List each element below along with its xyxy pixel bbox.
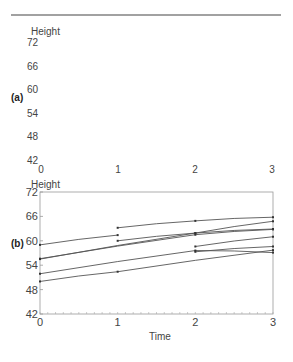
x-tick-label: 2 bbox=[192, 316, 198, 328]
x-tick-label: 1 bbox=[115, 164, 121, 175]
panel-a-ylabel: Height bbox=[31, 26, 60, 37]
data-point-marker bbox=[272, 220, 274, 222]
panel-b: (b) Height 726660544842 0123 Time bbox=[11, 179, 276, 342]
data-point-marker bbox=[117, 227, 119, 229]
data-point-marker bbox=[117, 240, 119, 242]
y-tick-label: 42 bbox=[27, 155, 39, 166]
x-tick-label: 3 bbox=[270, 316, 276, 328]
panel-b-x-tick-labels: 0123 bbox=[37, 316, 276, 328]
panel-a-x-tick-labels: 0123 bbox=[38, 164, 275, 175]
y-tick-label: 72 bbox=[27, 37, 39, 48]
y-tick-label: 72 bbox=[26, 186, 38, 198]
data-point-marker bbox=[39, 273, 41, 275]
series-lines bbox=[39, 216, 274, 282]
series-line-subject-4 bbox=[40, 251, 273, 274]
panel-a-y-tick-labels: 726660544842 bbox=[27, 37, 39, 166]
x-tick-label: 0 bbox=[37, 316, 43, 328]
x-tick-label: 3 bbox=[269, 164, 275, 175]
data-point-marker bbox=[194, 245, 196, 247]
data-point-marker bbox=[39, 258, 41, 260]
data-point-marker bbox=[272, 249, 274, 251]
y-tick-label: 66 bbox=[27, 61, 39, 72]
data-point-marker bbox=[194, 232, 196, 234]
y-tick-label: 48 bbox=[26, 284, 38, 296]
x-tick-label: 2 bbox=[192, 164, 198, 175]
data-point-marker bbox=[39, 280, 41, 282]
y-tick-label: 66 bbox=[26, 210, 38, 222]
figure: (a) Height 726660544842 0123 (b) Height … bbox=[0, 0, 293, 362]
data-point-marker bbox=[194, 220, 196, 222]
data-point-marker bbox=[272, 245, 274, 247]
y-tick-label: 54 bbox=[27, 108, 39, 119]
data-point-marker bbox=[194, 251, 196, 253]
data-point-marker bbox=[272, 228, 274, 230]
series-line-subject-1 bbox=[40, 235, 118, 245]
data-point-marker bbox=[272, 216, 274, 218]
data-point-marker bbox=[39, 244, 41, 246]
x-tick-label: 0 bbox=[38, 164, 44, 175]
x-axis-title: Time bbox=[149, 331, 171, 342]
data-point-marker bbox=[272, 236, 274, 238]
series-line-subject-8 bbox=[195, 237, 273, 247]
series-line-subject-5 bbox=[40, 250, 273, 281]
panel-b-label: (b) bbox=[11, 238, 24, 249]
y-tick-label: 48 bbox=[27, 131, 39, 142]
y-tick-label: 60 bbox=[27, 84, 39, 95]
panel-a-label: (a) bbox=[11, 92, 23, 103]
data-point-marker bbox=[117, 271, 119, 273]
x-tick-label: 1 bbox=[115, 316, 121, 328]
series-line-subject-6 bbox=[118, 217, 273, 228]
y-tick-label: 54 bbox=[26, 259, 38, 271]
y-tick-label: 60 bbox=[26, 235, 38, 247]
data-point-marker bbox=[272, 252, 274, 254]
data-point-marker bbox=[117, 234, 119, 236]
panel-a: (a) Height 726660544842 0123 bbox=[11, 26, 275, 175]
panel-b-y-tick-labels: 726660544842 bbox=[26, 186, 43, 320]
